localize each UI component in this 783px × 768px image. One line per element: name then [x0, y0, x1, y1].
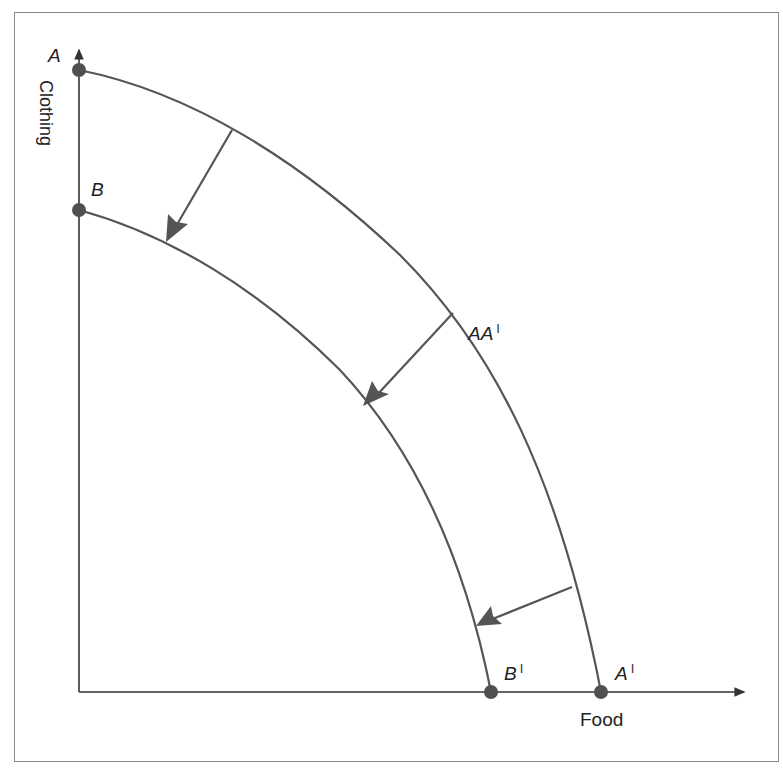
shift-arrow-top — [166, 130, 232, 242]
label-a-prime: AI — [615, 664, 634, 683]
curve-bb-prime — [79, 210, 491, 692]
curve-aa-prime — [79, 70, 601, 692]
y-axis-label: Clothing — [35, 80, 56, 146]
label-b: B — [91, 180, 104, 199]
point-a-prime — [594, 685, 608, 699]
point-b-prime — [484, 685, 498, 699]
point-a — [72, 63, 86, 77]
label-aa-prime: AAI — [468, 324, 500, 343]
label-b-prime: BI — [504, 664, 523, 683]
shift-arrow-middle — [363, 313, 453, 406]
shift-arrow-bottom — [476, 587, 572, 626]
point-b — [72, 203, 86, 217]
x-axis-label: Food — [580, 710, 623, 729]
ppf-diagram — [0, 0, 783, 768]
label-a: A — [48, 46, 61, 65]
